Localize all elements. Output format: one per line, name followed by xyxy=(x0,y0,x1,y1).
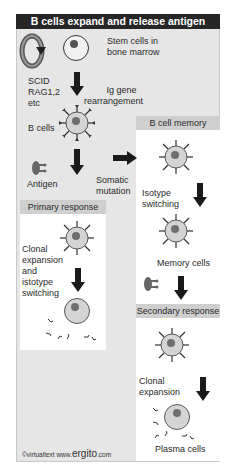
memory-b-cell-icon xyxy=(158,139,194,175)
isotype-line2: switching xyxy=(142,199,179,210)
stem-cells-line1: Stem cells in xyxy=(107,36,160,47)
antigen-label: Antigen xyxy=(27,179,58,190)
secondary-b-cell-icon xyxy=(154,327,190,363)
b-cell-icon xyxy=(59,105,95,141)
copyright-text: ©virtualtext xyxy=(22,451,55,458)
arrow-right-icon xyxy=(113,151,137,165)
clonal1-line4: istotype xyxy=(22,277,63,288)
diagram-title: B cells expand and release antigen xyxy=(16,14,220,29)
arrow-down-icon xyxy=(71,268,85,292)
memory-cell-icon xyxy=(158,213,194,249)
antibodies-icon xyxy=(40,317,102,345)
somatic-line2: mutation xyxy=(96,186,131,197)
footer-credit: ©virtualtext www.ergito.com xyxy=(22,448,111,459)
secondary-response-title: Secondary response xyxy=(136,304,220,318)
ig-gene-label: Ig gene rearrangement xyxy=(100,85,143,107)
arrow-down-icon xyxy=(193,183,207,207)
scid-line3: etc xyxy=(28,98,60,109)
arrow-down-icon xyxy=(196,377,210,401)
ig-line1: Ig gene xyxy=(100,85,143,96)
memory-cells-label: Memory cells xyxy=(157,258,210,269)
arrow-down-icon xyxy=(70,149,84,175)
antibodies-icon xyxy=(150,406,198,446)
stem-cell-icon xyxy=(62,34,90,62)
clonal1-line1: Clonal xyxy=(22,244,63,255)
arrow-down-icon xyxy=(70,72,84,96)
scid-line2: RAG1,2 xyxy=(28,87,60,98)
antigen-icon xyxy=(144,276,160,292)
clonal2-line2: expansion xyxy=(139,387,180,398)
footer-brand: ergito xyxy=(72,448,97,459)
primary-b-cell-icon xyxy=(59,220,95,256)
plasma-cells-label: Plasma cells xyxy=(155,444,206,455)
primary-response-title: Primary response xyxy=(20,200,106,214)
clonal-expansion-label: Clonal expansion xyxy=(139,376,180,398)
b-cell-memory-title: B cell memory xyxy=(136,116,220,130)
footer-tld: .com xyxy=(97,451,111,458)
arrow-down-icon xyxy=(174,276,188,300)
clonal1-line5: switching xyxy=(22,288,63,299)
isotype-line1: Isotype xyxy=(142,188,179,199)
clonal1-line2: expansion xyxy=(22,255,63,266)
stem-cells-label: Stem cells in bone marrow xyxy=(107,36,160,58)
somatic-mutation-label: Somatic mutation xyxy=(96,175,131,197)
somatic-line1: Somatic xyxy=(96,175,131,186)
scid-line1: SCID xyxy=(28,76,60,87)
antigen-icon xyxy=(32,160,48,176)
b-cells-label: B cells xyxy=(28,123,55,134)
isotype-switching-label: Isotype switching xyxy=(142,188,179,210)
footer-www: www. xyxy=(56,451,72,458)
clonal2-line1: Clonal xyxy=(139,376,180,387)
clonal-expansion-isotype-label: Clonal expansion and istotype switching xyxy=(22,244,63,299)
scid-label: SCID RAG1,2 etc xyxy=(28,76,60,109)
cycle-arrow-icon xyxy=(20,33,46,69)
stem-cells-line2: bone marrow xyxy=(107,47,160,58)
clonal1-line3: and xyxy=(22,266,63,277)
